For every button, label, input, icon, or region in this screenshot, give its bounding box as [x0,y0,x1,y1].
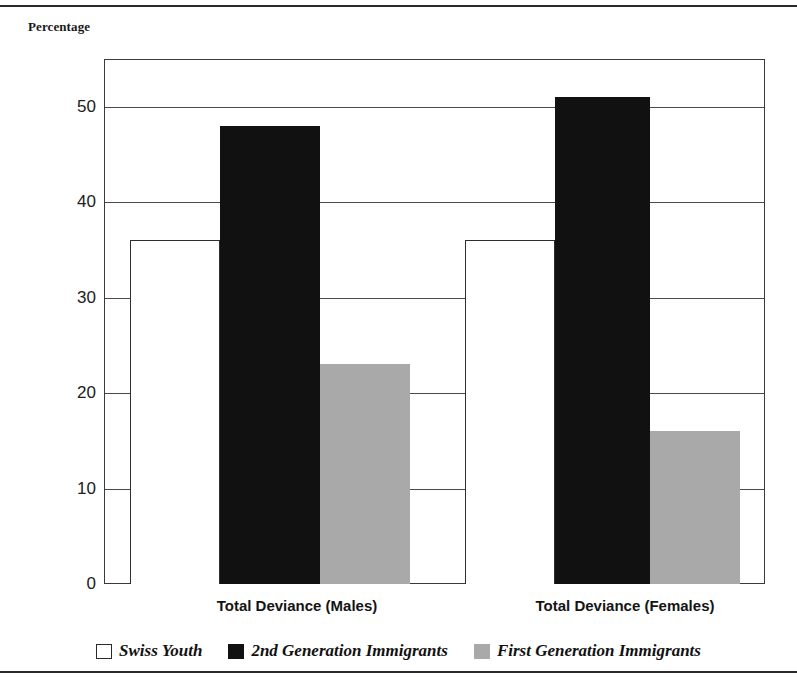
gridline-40 [105,202,764,203]
y-axis-tick-labels: 50403020100 [0,59,96,584]
bottom-divider-rule [0,671,797,673]
legend-label: First Generation Immigrants [497,641,701,661]
gridline-10 [105,489,764,490]
y-tick-label-40: 40 [6,192,96,212]
legend-swatch-black [228,644,244,659]
y-tick-label-50: 50 [6,97,96,117]
legend-label: Swiss Youth [119,641,202,661]
gridline-30 [105,298,764,299]
legend-swatch-gray [474,644,490,659]
x-label-1: Total Deviance (Males) [147,597,447,614]
gridline-50 [105,107,764,108]
legend-item-3: First Generation Immigrants [474,641,701,661]
plot-area [104,59,765,584]
gridline-20 [105,393,764,394]
y-tick-label-10: 10 [6,479,96,499]
legend-item-2: 2nd Generation Immigrants [228,641,448,661]
y-tick-label-0: 0 [6,574,96,594]
legend-label: 2nd Generation Immigrants [251,641,448,661]
legend-swatch-white [96,644,112,659]
y-tick-label-20: 20 [6,383,96,403]
chart-legend: Swiss Youth2nd Generation ImmigrantsFirs… [0,641,797,661]
top-divider-rule [0,5,797,7]
y-axis-title: Percentage [28,19,90,35]
chart-figure: Percentage 50403020100 Total Deviance (M… [0,0,797,688]
y-tick-label-30: 30 [6,288,96,308]
x-label-2: Total Deviance (Females) [475,597,775,614]
legend-item-1: Swiss Youth [96,641,202,661]
